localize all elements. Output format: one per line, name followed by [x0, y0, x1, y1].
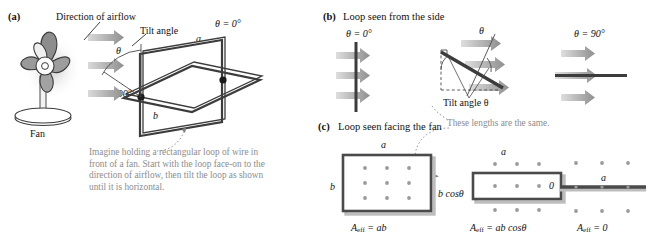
panel-c-item-1-formula-rhs: = ab cosθ [486, 222, 526, 233]
tilt-angle-leader-line [130, 34, 148, 48]
panel-c-item-2-formula-rhs: = 0 [593, 222, 607, 233]
panel-a-letter: (a) [8, 11, 20, 22]
panel-c-letter: (c) [318, 121, 330, 132]
pivot-node-right [219, 76, 226, 83]
panel-c-item-0-formula-rhs: = ab [367, 222, 386, 233]
panel-c-item-0-side-label: b [330, 181, 335, 192]
side-view-loop-theta-0 [336, 42, 398, 112]
loop-horizontal [124, 62, 262, 112]
panel-b-middle-theta: θ [479, 25, 484, 36]
panel-c-item-0-formula-sub: eff [357, 226, 365, 233]
panel-a-caption: Imagine holding a rectangular loop of wi… [89, 147, 275, 193]
lengths-note-line1: These lengths are the same. [447, 118, 549, 128]
loop-face-on-full [338, 150, 436, 216]
lengths-note: These lengths are the same. [447, 118, 549, 129]
panel-c-title: Loop seen facing the fan [338, 121, 442, 132]
panel-c-item-0-formula: Aeff = ab [351, 222, 387, 233]
panel-b-left-theta: θ = 0° [346, 28, 372, 39]
panel-c-item-2-formula-sub: eff [583, 226, 591, 233]
panel-c-item-0-top-label: a [381, 139, 386, 150]
side-view-loop-theta-90 [553, 44, 645, 106]
loop-face-on-edge [558, 156, 648, 218]
panel-c-item-2-side-label: 0 [549, 180, 554, 191]
panel-c-item-2-formula: Aeff = 0 [577, 222, 608, 233]
panel-c-item-1-formula-sub: eff [476, 226, 484, 233]
panel-b-title: Loop seen from the side [343, 11, 444, 22]
panel-b-letter: (b) [323, 11, 336, 22]
panel-c-item-1-side-label: b cosθ [438, 188, 464, 199]
panel-b-right-theta: θ = 90° [574, 28, 605, 39]
panel-c-item-1-top-label: a [501, 146, 506, 157]
loop-vertical [140, 37, 225, 136]
panel-c-item-1-formula: Aeff = ab cosθ [470, 222, 526, 233]
